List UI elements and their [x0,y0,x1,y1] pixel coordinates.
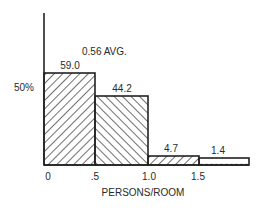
y-reference-label: 50% [14,83,34,93]
bar-1.5-plus [199,158,249,165]
histogram-chart [0,0,266,212]
average-annotation: 0.56 AVG. [82,47,127,57]
x-tick-label: .5 [91,172,99,182]
bar-value-label: 4.7 [164,144,178,154]
x-axis-label: PERSONS/ROOM [102,188,185,198]
bar-0-0.5 [44,73,95,165]
x-tick-label: 0 [45,172,51,182]
bar-1.0-1.5 [148,156,199,165]
bar-value-label: 1.4 [211,146,225,156]
bar-0.5-1.0 [95,96,148,165]
x-tick-label: 1.5 [191,172,205,182]
bar-value-label: 59.0 [60,61,79,71]
bar-value-label: 44.2 [112,84,131,94]
x-tick-label: 1.0 [142,172,156,182]
